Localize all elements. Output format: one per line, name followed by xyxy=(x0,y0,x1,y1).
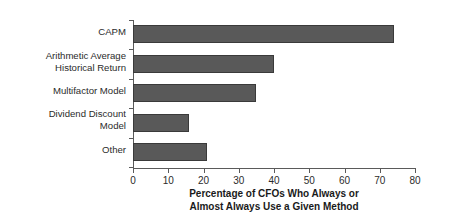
x-axis-tick xyxy=(380,168,381,173)
bar-multifactor-model xyxy=(133,84,256,102)
bar-other xyxy=(133,143,207,161)
category-label-dividend-discount-model: Dividend Discount Model xyxy=(22,108,126,131)
bar-arithmetic-average-historical-return xyxy=(133,55,274,73)
x-axis-tick-label: 30 xyxy=(224,175,254,186)
y-axis-tick xyxy=(129,79,133,80)
category-label-multifactor-model: Multifactor Model xyxy=(22,85,126,97)
x-axis-tick xyxy=(168,168,169,173)
x-axis-tick-label: 50 xyxy=(294,175,324,186)
x-axis-tick xyxy=(274,168,275,173)
y-axis-tick xyxy=(129,49,133,50)
category-label-group: CAPM Arithmetic Average Historical Retur… xyxy=(26,20,130,168)
bar-capm xyxy=(133,25,394,43)
x-axis-tick-label: 0 xyxy=(118,175,148,186)
x-axis-tick xyxy=(133,168,134,173)
x-axis-tick-label: 60 xyxy=(330,175,360,186)
category-label-capm: CAPM xyxy=(22,26,126,38)
x-axis-tick xyxy=(415,168,416,173)
bar-chart-figure: Cost of Equity Capital Method CAPM Arith… xyxy=(0,0,456,222)
x-axis-title: Percentage of CFOs Who Always or Almost … xyxy=(133,188,415,213)
x-axis-tick xyxy=(309,168,310,173)
x-axis-tick-label: 80 xyxy=(400,175,430,186)
y-axis-tick xyxy=(129,108,133,109)
x-axis-tick-label: 40 xyxy=(259,175,289,186)
x-axis-tick-label: 20 xyxy=(189,175,219,186)
x-axis-tick xyxy=(204,168,205,173)
y-axis-tick xyxy=(129,20,133,21)
x-axis-tick-label: 70 xyxy=(365,175,395,186)
bar-dividend-discount-model xyxy=(133,114,189,132)
plot-area: 01020304050607080 xyxy=(133,20,415,168)
y-axis-tick xyxy=(129,138,133,139)
x-axis-tick-label: 10 xyxy=(153,175,183,186)
category-label-arithmetic-average-historical-return: Arithmetic Average Historical Return xyxy=(22,50,126,73)
category-label-other: Other xyxy=(22,144,126,156)
x-axis-tick xyxy=(345,168,346,173)
x-axis-tick xyxy=(239,168,240,173)
